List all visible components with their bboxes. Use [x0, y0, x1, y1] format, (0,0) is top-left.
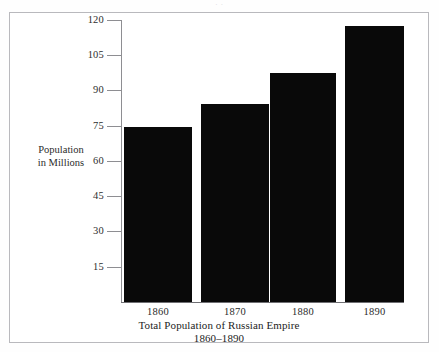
chart-subtitle: 1860–1890 — [12, 332, 426, 345]
y-tick-label-row-15: 15 — [0, 262, 104, 272]
y-tick-label: 120 — [68, 15, 104, 25]
y-tick-45 — [107, 196, 122, 197]
y-tick-label: 30 — [68, 226, 104, 236]
x-tick-label-1870: 1870 — [201, 306, 269, 318]
y-tick-label: 75 — [68, 121, 104, 131]
y-tick-label-row-75: 75 — [0, 121, 104, 131]
x-tick-label-1860: 1860 — [124, 306, 192, 318]
y-tick-label: 90 — [68, 85, 104, 95]
y-tick-label: 105 — [68, 50, 104, 60]
x-tick-label-1880: 1880 — [270, 306, 336, 318]
y-tick-label-row-105: 105 — [0, 50, 104, 60]
y-tick-30 — [107, 231, 122, 232]
y-tick-label-row-30: 30 — [0, 226, 104, 236]
bar-1860 — [124, 127, 192, 302]
y-tick-label: 45 — [68, 191, 104, 201]
y-axis-title: Population in Millions — [20, 144, 102, 169]
y-tick-75 — [107, 126, 122, 127]
figure-root: . . 120 105 90 75 60 45 30 — [0, 0, 439, 352]
chart-title: Total Population of Russian Empire — [12, 319, 426, 332]
bar-1890 — [345, 26, 404, 302]
y-tick-90 — [107, 90, 122, 91]
y-tick-60 — [107, 161, 122, 162]
plot-area: 120 105 90 75 60 45 30 15 — [0, 0, 439, 352]
y-tick-label: 15 — [68, 262, 104, 272]
bar-1870 — [201, 104, 269, 302]
y-axis-title-line2: in Millions — [20, 157, 102, 170]
y-tick-105 — [107, 55, 122, 56]
x-axis-line — [121, 302, 404, 303]
bar-1880 — [270, 73, 336, 302]
y-tick-label-row-90: 90 — [0, 85, 104, 95]
y-axis-title-line1: Population — [20, 144, 102, 157]
y-tick-label-row-120: 120 — [0, 15, 104, 25]
y-tick-label-row-45: 45 — [0, 191, 104, 201]
y-tick-15 — [107, 267, 122, 268]
x-tick-label-1890: 1890 — [345, 306, 404, 318]
y-tick-120 — [107, 20, 122, 21]
